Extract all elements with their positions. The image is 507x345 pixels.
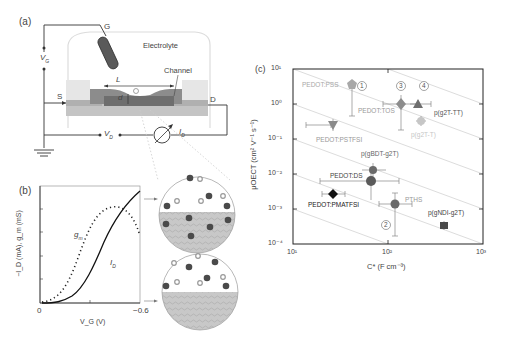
label-pedot-pstfsi: PEDOT:PSTFSI bbox=[316, 136, 362, 143]
panel-c-xlabel: C* (F cm⁻³) bbox=[367, 262, 406, 271]
panel-b-ylabel: −I_D (mA), g_m (mS) bbox=[15, 210, 22, 277]
marker-p-g2t-t bbox=[417, 117, 425, 125]
ytick-10-m4: 10⁻⁴ bbox=[268, 239, 283, 247]
dedoped-state-circle bbox=[160, 254, 240, 332]
gate-electrode bbox=[96, 35, 119, 70]
electrolyte-label: Electrolyte bbox=[143, 41, 178, 50]
panel-b-xtick-start: 0 bbox=[37, 306, 41, 315]
gate-voltage-label: VG bbox=[40, 53, 49, 64]
annotation-1: 1 bbox=[360, 82, 364, 89]
panel-b-xtick-end: −0.6 bbox=[133, 306, 149, 315]
label-pedot-ds: PEDOT:DS bbox=[330, 172, 363, 179]
annotation-3: 3 bbox=[399, 82, 403, 89]
panel-b-xlabel: V_G (V) bbox=[80, 318, 105, 325]
ytick-10-m2: 10⁻² bbox=[268, 169, 282, 177]
drain-current-label: ID bbox=[179, 127, 185, 138]
panel-a-label: (a) bbox=[19, 16, 31, 27]
marker-p-g2t-tt bbox=[413, 99, 423, 108]
ytick-10-m1: 10⁻¹ bbox=[268, 134, 282, 142]
marker-p-gndi-g2t bbox=[440, 222, 448, 229]
drain-label: D bbox=[210, 95, 216, 104]
ytick-10-m3: 10⁻³ bbox=[268, 204, 282, 212]
id-curve-label: ID bbox=[110, 258, 116, 269]
annotation-4: 4 bbox=[422, 82, 426, 89]
label-pedot-pmatfsi: PEDOT:PMATFSI bbox=[308, 201, 359, 208]
marker-pedot-ds bbox=[366, 176, 376, 186]
marker-pedot-pss bbox=[347, 79, 357, 89]
marker-pedot-tos bbox=[396, 98, 406, 110]
ytick-10-1: 10¹ bbox=[271, 64, 281, 71]
source-label: S bbox=[57, 92, 62, 101]
panel-c-ylabel: μOECT (cm² V⁻¹ s⁻¹) bbox=[249, 119, 258, 190]
doped-state-circle bbox=[158, 175, 238, 257]
xtick-10-2: 10² bbox=[382, 248, 392, 255]
label-pths: PTHS bbox=[405, 196, 422, 203]
marker-p-gbdt-g2t bbox=[369, 166, 377, 174]
oect-schematic bbox=[34, 25, 230, 180]
drain-voltage-label: VD bbox=[104, 129, 113, 140]
xtick-10-3: 10³ bbox=[476, 248, 486, 255]
marker-pths bbox=[391, 200, 400, 209]
label-p-g2t-t: p(g2T-T) bbox=[411, 131, 436, 138]
label-p-g2t-tt: p(g2T-TT) bbox=[434, 109, 463, 116]
label-pedot-tos: PEDOT:TOS bbox=[358, 107, 395, 114]
marker-pedot-pstfsi bbox=[328, 121, 338, 130]
transfer-curve-plot bbox=[40, 186, 158, 303]
gm-curve bbox=[42, 207, 140, 302]
id-curve bbox=[42, 191, 140, 303]
label-pedot-pss: PEDOT:PSS bbox=[302, 81, 338, 88]
length-label: L bbox=[116, 75, 120, 84]
channel-label: Channel bbox=[164, 66, 192, 75]
panel-b-label: (b) bbox=[19, 185, 31, 196]
panel-c-label: (c) bbox=[255, 64, 266, 74]
ytick-10-0: 10⁰ bbox=[271, 99, 282, 107]
thickness-label: d bbox=[118, 93, 122, 102]
gate-label: G bbox=[104, 22, 110, 31]
annotation-2: 2 bbox=[384, 221, 388, 228]
gm-curve-label: gm bbox=[74, 230, 83, 241]
xtick-10-1: 10¹ bbox=[287, 248, 297, 255]
label-p-gbdt-g2t: p(gBDT-g2T) bbox=[361, 150, 399, 157]
label-p-gndi-g2t: p(gNDI-g2T) bbox=[428, 209, 464, 216]
